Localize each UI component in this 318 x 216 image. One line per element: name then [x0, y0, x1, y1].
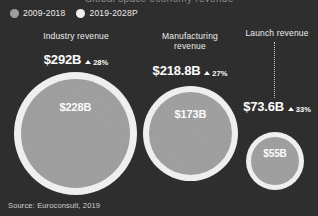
- forecast-value: $292B: [44, 52, 81, 67]
- group-title: Manufacturing revenue: [142, 31, 238, 51]
- bubble-group-launch-revenue[interactable]: Launch revenue $73.6B 33% $55B: [236, 0, 318, 216]
- historical-value: $55B: [263, 148, 287, 159]
- group-value-row: $73.6B 33%: [235, 99, 318, 114]
- historical-value: $173B: [175, 108, 207, 120]
- triangle-up-icon: [204, 71, 210, 75]
- historical-value: $228B: [60, 101, 92, 113]
- growth-value: 27%: [212, 69, 227, 78]
- legend-label: 2019-2028P: [89, 8, 137, 18]
- forecast-value: $218.8B: [153, 63, 201, 78]
- bubble-group-industry-revenue[interactable]: Industry revenue $292B 28% $228B: [0, 0, 152, 216]
- circle-icon: [76, 9, 85, 18]
- group-value-row: $292B 28%: [13, 52, 139, 67]
- chart-legend: 2009-2018 2019-2028P: [10, 8, 138, 18]
- growth-badge: 28%: [85, 58, 108, 67]
- triangle-up-icon: [85, 60, 91, 64]
- group-title: Industry revenue: [13, 31, 139, 41]
- bubble-group-manufacturing-revenue[interactable]: Manufacturing revenue $218.8B 27% $173B: [140, 0, 240, 216]
- forecast-value: $73.6B: [243, 99, 284, 114]
- legend-item-2009-2018[interactable]: 2009-2018: [10, 8, 65, 18]
- leader-line: [274, 42, 275, 98]
- bubble-historical-2009-2018[interactable]: $173B: [149, 92, 232, 175]
- triangle-up-icon: [288, 107, 294, 111]
- source-note: Source: Euroconsult, 2019: [8, 201, 100, 210]
- growth-value: 28%: [93, 58, 108, 67]
- group-title: Launch revenue: [236, 28, 318, 38]
- growth-badge: 33%: [288, 105, 311, 114]
- circle-icon: [10, 9, 19, 18]
- legend-item-2019-2028p[interactable]: 2019-2028P: [76, 8, 137, 18]
- bubble-historical-2009-2018[interactable]: $55B: [251, 137, 299, 185]
- bubble-historical-2009-2018[interactable]: $228B: [21, 79, 130, 188]
- group-value-row: $218.8B 27%: [138, 63, 242, 78]
- legend-label: 2009-2018: [23, 8, 65, 18]
- growth-value: 33%: [296, 105, 311, 114]
- growth-badge: 27%: [204, 69, 227, 78]
- space-economy-bubble-chart: Global space economy revenue 2009-2018 2…: [0, 0, 318, 216]
